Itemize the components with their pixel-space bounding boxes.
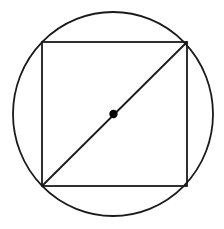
geometry-diagram bbox=[0, 0, 224, 229]
geometry-figure-canvas bbox=[0, 0, 224, 229]
center-point-dot bbox=[109, 110, 117, 118]
